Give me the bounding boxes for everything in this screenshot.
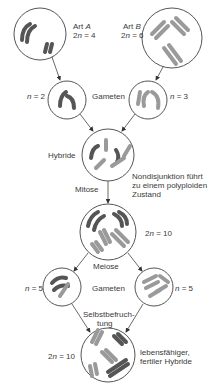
hybrid-label: Hybride xyxy=(48,151,76,160)
gametes-label-top: Gameten xyxy=(92,92,125,101)
gamete-b-cell xyxy=(129,81,167,119)
selfing-label-line1: Selbstbefruch- xyxy=(83,310,135,319)
species-b-ploidy: 2n = 6 xyxy=(121,31,143,40)
gamete-a-cell xyxy=(48,81,86,119)
polyploid-cell xyxy=(80,204,136,260)
species-a-label: Art A xyxy=(73,22,91,31)
nondisjunction-note: Nondisjunktion führt zu einem polyploide… xyxy=(132,172,210,199)
gamete-b-ploidy: n = 3 xyxy=(170,92,188,101)
meiosis-label: Meiose xyxy=(93,262,119,271)
gamete-left-ploidy: n = 5 xyxy=(25,284,43,293)
polyploid-ploidy: 2n = 10 xyxy=(145,229,172,238)
gametes-label-bottom: Gameten xyxy=(92,284,125,293)
mitosis-label: Mitose xyxy=(75,185,99,194)
final-note-line2: fertiler Hybride xyxy=(140,357,192,366)
selfing-label-line2: tung xyxy=(97,319,113,328)
final-ploidy: 2n = 10 xyxy=(48,352,75,361)
final-note-line1: lebensfähiger, xyxy=(140,348,190,357)
species-a-ploidy: 2n = 4 xyxy=(73,31,95,40)
gamete-right-ploidy: n = 5 xyxy=(175,284,193,293)
gamete-a-ploidy: n = 2 xyxy=(27,92,45,101)
species-b-label: Art B xyxy=(123,22,141,31)
